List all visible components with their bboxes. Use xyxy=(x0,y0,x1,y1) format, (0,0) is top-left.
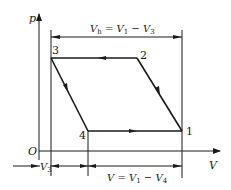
pv-diagram: p V O Vh = V1 − V3 1 2 3 4 xyxy=(0,0,231,190)
point-4-label: 4 xyxy=(79,129,86,142)
p-axis: p xyxy=(29,12,39,160)
extension-lines xyxy=(51,30,182,178)
point-2-label: 2 xyxy=(140,49,147,62)
origin-label: O xyxy=(28,145,37,158)
v-swept-label: V = V1 − V4 xyxy=(107,172,168,185)
point-1-label: 1 xyxy=(186,125,193,138)
dimension-bottom: V3 V = V1 − V4 xyxy=(13,160,182,185)
p-axis-label: p xyxy=(29,12,36,25)
cycle-direction-arrows xyxy=(63,56,160,133)
v-axis: V O xyxy=(28,145,220,172)
v-axis-label: V xyxy=(209,159,218,172)
point-3-label: 3 xyxy=(52,44,59,57)
cycle-path xyxy=(51,58,182,131)
dimension-vh: Vh = V1 − V3 xyxy=(51,23,182,39)
vh-label: Vh = V1 − V3 xyxy=(90,23,155,36)
